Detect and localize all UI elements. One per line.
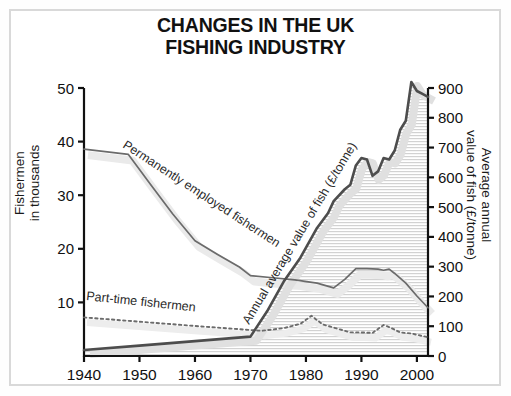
svg-text:100: 100 — [438, 318, 463, 335]
svg-text:0: 0 — [438, 348, 446, 365]
svg-text:300: 300 — [438, 258, 463, 275]
svg-text:2000: 2000 — [400, 366, 435, 383]
svg-text:1950: 1950 — [122, 366, 157, 383]
svg-text:600: 600 — [438, 169, 463, 186]
chart-figure: CHANGES IN THE UK FISHING INDUSTRY Fishe… — [0, 0, 511, 396]
svg-text:40: 40 — [57, 133, 74, 150]
svg-text:20: 20 — [57, 240, 74, 257]
series-annotation: Part-time fishermen — [86, 289, 197, 314]
svg-text:1990: 1990 — [344, 366, 379, 383]
svg-text:200: 200 — [438, 288, 463, 305]
svg-text:800: 800 — [438, 109, 463, 126]
svg-text:900: 900 — [438, 80, 463, 97]
svg-text:400: 400 — [438, 228, 463, 245]
svg-text:1940: 1940 — [67, 366, 102, 383]
series-annotation: Permanently employed fishermen — [120, 138, 283, 250]
svg-text:1970: 1970 — [233, 366, 268, 383]
svg-text:500: 500 — [438, 199, 463, 216]
svg-text:10: 10 — [57, 294, 74, 311]
svg-text:30: 30 — [57, 187, 74, 204]
svg-text:1960: 1960 — [178, 366, 213, 383]
svg-text:50: 50 — [57, 80, 74, 97]
svg-text:1980: 1980 — [289, 366, 324, 383]
plot-area: 1020304050010020030040050060070080090019… — [0, 0, 511, 396]
svg-text:700: 700 — [438, 139, 463, 156]
